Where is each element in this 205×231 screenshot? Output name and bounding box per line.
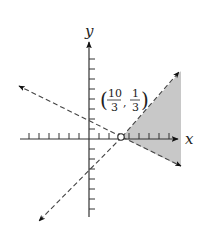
x-denominator: 3 [111,101,118,114]
inequality-graph: y x ( 10 3 , 1 3 ) [0,0,205,231]
x-axis-label: x [185,130,194,148]
boundary-line-2-left [39,137,122,221]
open-paren: ( [100,88,108,112]
y-numerator: 1 [132,87,139,100]
y-denominator: 3 [132,101,139,114]
x-numerator: 10 [108,87,122,100]
y-ticks [89,59,95,209]
close-paren: ) [141,88,149,112]
comma: , [123,96,127,109]
intersection-point [118,134,124,140]
y-axis-label: y [84,22,94,40]
point-label: ( 10 3 , 1 3 ) [100,87,149,114]
shaded-region [122,71,181,167]
